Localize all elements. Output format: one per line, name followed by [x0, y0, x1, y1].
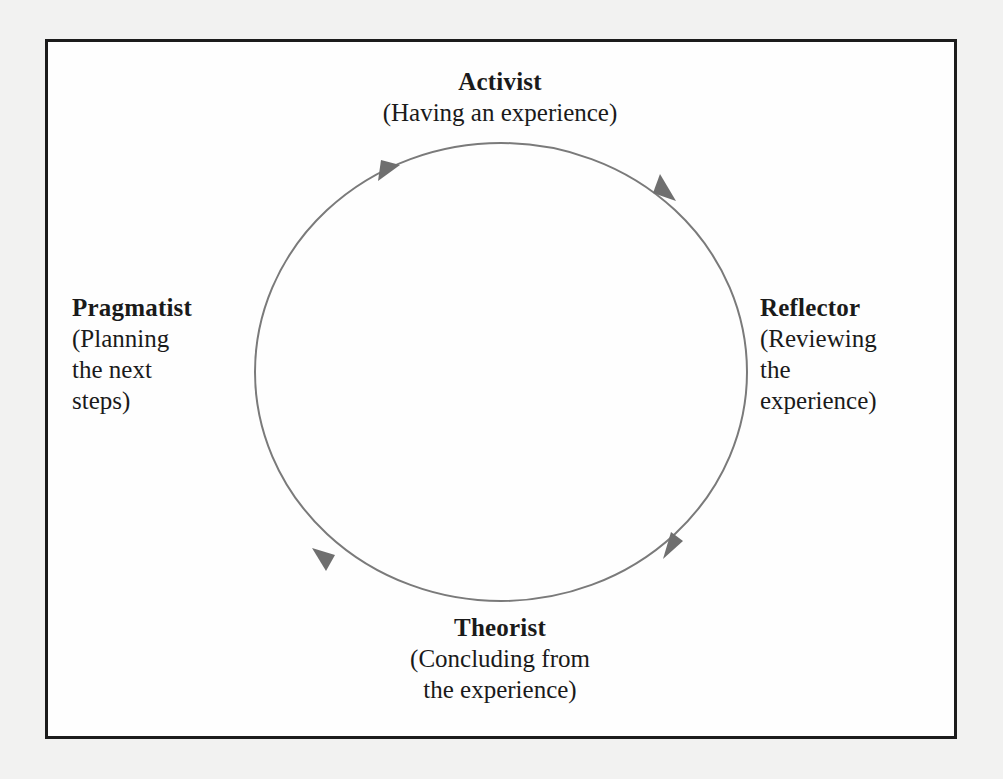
stage-description-line: (Reviewing [760, 323, 940, 354]
stage-description-line: experience) [760, 385, 940, 416]
stage-description-line: the [760, 354, 940, 385]
stage-reflector: Reflector (Reviewing the experience) [760, 292, 940, 416]
stage-description-line: (Planning [72, 323, 242, 354]
stage-description-line: the experience) [380, 674, 620, 705]
stage-pragmatist: Pragmatist (Planning the next steps) [72, 292, 242, 416]
stage-title: Pragmatist [72, 292, 242, 323]
stage-description-line: (Concluding from [380, 643, 620, 674]
stage-description-line: steps) [72, 385, 242, 416]
stage-theorist: Theorist (Concluding from the experience… [380, 612, 620, 705]
stage-description: (Having an experience) [350, 97, 650, 128]
stage-description-line: the next [72, 354, 242, 385]
stage-title: Reflector [760, 292, 940, 323]
stage-activist: Activist (Having an experience) [350, 66, 650, 128]
stage-title: Theorist [380, 612, 620, 643]
stage-title: Activist [350, 66, 650, 97]
